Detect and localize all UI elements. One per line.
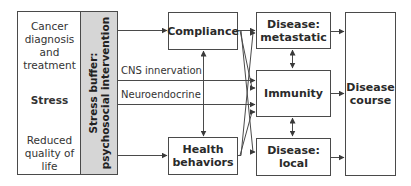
buffer-line-1: Stress buffer: — [87, 17, 99, 169]
disease-local-label: Disease: local — [267, 144, 320, 170]
stress-label: Stress — [18, 94, 81, 107]
local-line-1: Disease: — [267, 144, 320, 157]
neuroendocrine-label: Neuroendocrine — [121, 89, 201, 100]
immunity-label: Immunity — [264, 87, 323, 100]
origin-line-4: treatment — [18, 59, 81, 72]
disease-course-box: Disease course — [345, 12, 396, 176]
outcome-line-2: quality of — [18, 147, 81, 160]
disease-local-box: Disease: local — [256, 138, 331, 176]
metastatic-line-1: Disease: — [260, 18, 326, 31]
stressor-column: Cancer diagnosis and treatment Stress Re… — [17, 11, 81, 175]
outcome-line-3: life — [18, 160, 81, 173]
health-behaviors-label: Health behaviors — [172, 143, 233, 169]
disease-metastatic-label: Disease: metastatic — [260, 18, 326, 44]
origin-line-1: Cancer — [18, 20, 81, 33]
stress-buffer-band: Stress buffer: psychosocial intervention — [80, 11, 118, 175]
local-line-2: local — [267, 157, 320, 170]
immunity-box: Immunity — [256, 70, 331, 117]
origin-line-3: and — [18, 46, 81, 59]
buffer-line-2: psychosocial intervention — [99, 17, 111, 169]
stress-buffer-label: Stress buffer: psychosocial intervention — [87, 17, 111, 169]
compliance-label: Compliance — [167, 25, 239, 38]
cancer-diagnosis-label: Cancer diagnosis and treatment — [18, 20, 81, 72]
compliance-box: Compliance — [168, 12, 238, 50]
disease-course-label: Disease course — [346, 81, 394, 107]
stress-cancer-pathway-diagram: Cancer diagnosis and treatment Stress Re… — [0, 0, 411, 186]
course-line-1: Disease — [346, 81, 394, 94]
health-behaviors-box: Health behaviors — [168, 137, 238, 175]
origin-line-2: diagnosis — [18, 33, 81, 46]
disease-metastatic-box: Disease: metastatic — [256, 12, 331, 49]
outcome-line-1: Reduced — [18, 134, 81, 147]
health-behaviors-line-1: Health — [172, 143, 233, 156]
health-behaviors-line-2: behaviors — [172, 156, 233, 169]
course-line-2: course — [346, 94, 394, 107]
metastatic-line-2: metastatic — [260, 31, 326, 44]
cns-innervation-label: CNS innervation — [121, 65, 202, 76]
reduced-quality-of-life-label: Reduced quality of life — [18, 134, 81, 173]
